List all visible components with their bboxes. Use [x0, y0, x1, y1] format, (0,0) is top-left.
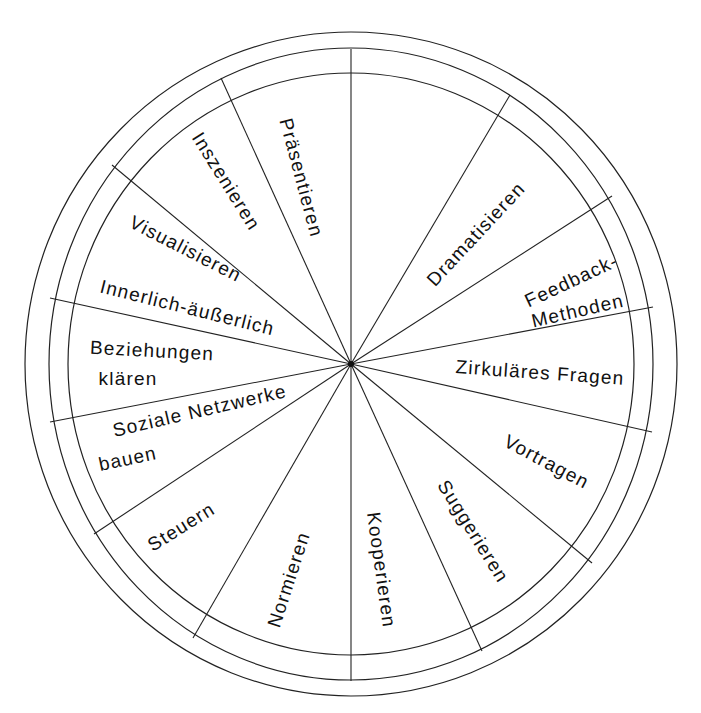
segment-label: klären — [99, 368, 158, 389]
segment-label: Innerlich-äußerlich — [98, 276, 277, 340]
segment-label: Soziale Netzwerke — [111, 380, 289, 440]
segment-labels: PräsentierenInszenierenVisualisierenInne… — [90, 116, 626, 630]
method-wheel-diagram: PräsentierenInszenierenVisualisierenInne… — [0, 0, 701, 713]
segment-label: Präsentieren — [275, 116, 327, 239]
segment-label: Dramatisieren — [423, 178, 530, 290]
segment-label: Normieren — [263, 529, 314, 630]
segment-label: Inszenieren — [188, 128, 265, 234]
segment-label: Visualisieren — [126, 211, 245, 286]
segment-label: Zirkuläres Fragen — [455, 356, 625, 389]
segment-label: Kooperieren — [363, 511, 400, 630]
wheel-hub — [348, 361, 354, 367]
segment-label: Beziehungen — [90, 337, 215, 364]
segment-label: bauen — [97, 442, 159, 475]
segment-label: Vortragen — [501, 431, 593, 493]
spoke-divider — [351, 307, 653, 364]
segment-label: Steuern — [144, 498, 219, 556]
